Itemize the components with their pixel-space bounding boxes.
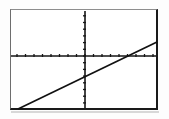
plot-canvas xyxy=(0,0,169,119)
data-series-group xyxy=(18,42,157,109)
plotted-line xyxy=(18,42,157,109)
graph-screenshot xyxy=(0,0,169,119)
y-axis-group xyxy=(83,11,86,108)
